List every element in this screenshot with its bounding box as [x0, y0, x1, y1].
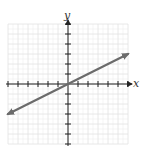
coordinate-plane — [0, 0, 145, 154]
x-axis-label: x — [133, 77, 139, 90]
y-axis-label: y — [64, 9, 70, 22]
